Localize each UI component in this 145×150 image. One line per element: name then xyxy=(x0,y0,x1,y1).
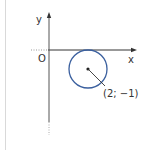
y-axis-label: y xyxy=(36,14,42,25)
x-axis-arrow-icon xyxy=(131,48,137,52)
origin-label: O xyxy=(38,53,46,64)
center-coordinate-label: (2; −1) xyxy=(103,88,139,99)
y-axis-arrow-icon xyxy=(47,12,51,18)
x-axis-label: x xyxy=(128,54,134,65)
coordinate-diagram: y x O (2; −1) xyxy=(0,0,145,150)
center-label-leader-line xyxy=(88,69,105,86)
